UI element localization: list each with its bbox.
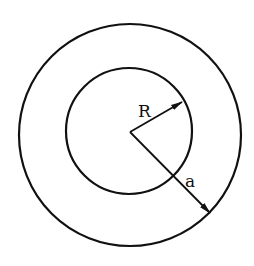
label-r: R — [138, 101, 152, 121]
concentric-circles-diagram: R a — [0, 0, 254, 266]
outer-circle — [19, 24, 241, 246]
label-a: a — [185, 171, 195, 191]
radius-a-arrow — [130, 132, 210, 213]
